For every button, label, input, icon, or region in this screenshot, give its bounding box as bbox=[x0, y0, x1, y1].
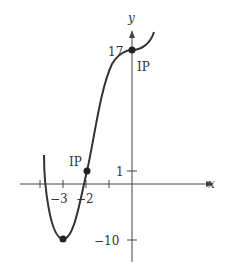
y-label-neg10: −10 bbox=[94, 234, 119, 248]
y-axis-arrow-icon bbox=[129, 30, 135, 38]
y-label-17: 17 bbox=[108, 45, 123, 59]
x-label-neg3: −3 bbox=[50, 192, 68, 206]
ip-label-mid: IP bbox=[69, 155, 82, 169]
inflection-point-top bbox=[129, 47, 136, 54]
minimum-point bbox=[60, 236, 67, 243]
function-graph: y x 17 IP IP 1 −10 −3 −2 bbox=[0, 0, 226, 268]
x-axis-label: x bbox=[208, 177, 215, 191]
ip-label-top: IP bbox=[137, 60, 150, 74]
y-label-1: 1 bbox=[116, 165, 124, 179]
y-axis-label: y bbox=[127, 11, 135, 25]
x-label-neg2: −2 bbox=[76, 192, 94, 206]
inflection-point-mid bbox=[84, 168, 91, 175]
